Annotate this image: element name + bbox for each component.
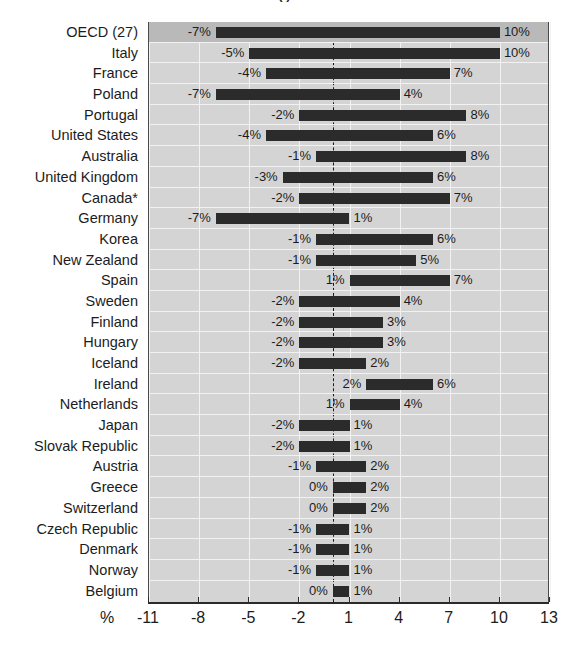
range-bar <box>316 151 466 162</box>
category-label: United Kingdom <box>0 167 145 188</box>
range-bar <box>299 110 466 121</box>
chart-row: -2%3% <box>149 312 548 333</box>
bar-value-label-high: 2% <box>370 498 389 519</box>
chart-title: ( ) <box>0 0 569 2</box>
bar-value-label-high: 1% <box>354 519 373 540</box>
bar-value-label-low: -4% <box>238 125 261 146</box>
category-label: Canada* <box>0 188 145 209</box>
axis-tick-label: 13 <box>540 609 558 627</box>
bar-value-label-low: -1% <box>288 519 311 540</box>
bar-value-label-low: -2% <box>271 353 294 374</box>
chart-row: -2%2% <box>149 353 548 374</box>
bar-value-label-low: -2% <box>271 312 294 333</box>
bar-value-label-high: 2% <box>370 477 389 498</box>
bar-value-label-low: -7% <box>188 208 211 229</box>
axis-tick <box>349 597 350 602</box>
range-bar <box>249 48 500 59</box>
category-label: Korea <box>0 229 145 250</box>
category-label: France <box>0 63 145 84</box>
bar-value-label-high: 6% <box>437 374 456 395</box>
category-label: Finland <box>0 312 145 333</box>
bar-value-label-low: -3% <box>255 167 278 188</box>
range-bar <box>266 68 450 79</box>
axis-tick-label: 4 <box>394 609 403 627</box>
range-bar <box>316 544 349 555</box>
range-bar <box>283 172 433 183</box>
range-bar <box>299 193 449 204</box>
range-bar <box>350 399 400 410</box>
range-bar <box>366 379 433 390</box>
bar-value-label-high: 10% <box>504 43 530 64</box>
axis-tick <box>449 597 450 602</box>
bar-value-label-low: 0% <box>309 477 328 498</box>
category-label: Australia <box>0 146 145 167</box>
bar-value-label-high: 1% <box>354 208 373 229</box>
category-label: OECD (27) <box>0 22 145 43</box>
category-label: Austria <box>0 456 145 477</box>
bar-value-label-low: -2% <box>271 105 294 126</box>
gridline <box>550 22 551 602</box>
bar-value-label-low: -2% <box>271 291 294 312</box>
axis-line <box>148 602 549 604</box>
axis-tick-label: 10 <box>490 609 508 627</box>
range-bar <box>299 296 399 307</box>
chart-row: 0%2% <box>149 498 548 519</box>
range-bar <box>299 441 349 452</box>
bar-value-label-high: 6% <box>437 125 456 146</box>
bar-value-label-low: -7% <box>188 84 211 105</box>
bar-value-label-low: -4% <box>238 63 261 84</box>
category-label: Portugal <box>0 105 145 126</box>
range-bar <box>316 461 366 472</box>
plot-area: -7%10%-5%10%-4%7%-7%4%-2%8%-4%6%-1%8%-3%… <box>148 22 549 602</box>
range-bar <box>299 420 349 431</box>
bar-value-label-low: -5% <box>221 43 244 64</box>
bar-value-label-low: -2% <box>271 415 294 436</box>
chart-row: -1%1% <box>149 519 548 540</box>
axis-tick <box>248 597 249 602</box>
bar-value-label-high: 1% <box>354 581 373 602</box>
range-bar <box>316 524 349 535</box>
range-bar <box>216 27 500 38</box>
category-label: Iceland <box>0 353 145 374</box>
chart-row: -2%1% <box>149 415 548 436</box>
bar-value-label-low: -7% <box>188 22 211 43</box>
bar-value-label-high: 1% <box>354 539 373 560</box>
chart-row: -1%8% <box>149 146 548 167</box>
chart-row: -1%2% <box>149 456 548 477</box>
bar-value-label-high: 6% <box>437 229 456 250</box>
bar-value-label-low: -1% <box>288 229 311 250</box>
axis-tick <box>499 597 500 602</box>
bar-value-label-low: -2% <box>271 332 294 353</box>
chart-row: -2%7% <box>149 188 548 209</box>
chart-row: -1%5% <box>149 250 548 271</box>
category-label: Denmark <box>0 539 145 560</box>
bar-value-label-low: 0% <box>309 498 328 519</box>
range-bar <box>316 255 416 266</box>
range-bar <box>299 358 366 369</box>
bar-value-label-low: 1% <box>326 270 345 291</box>
category-label: United States <box>0 125 145 146</box>
chart-row: -7%4% <box>149 84 548 105</box>
category-label: Greece <box>0 477 145 498</box>
range-bar <box>333 503 366 514</box>
chart-row: -7%1% <box>149 208 548 229</box>
axis-tick <box>198 597 199 602</box>
bar-value-label-high: 3% <box>387 332 406 353</box>
chart-row: -7%10% <box>149 22 548 43</box>
chart-row: -2%1% <box>149 436 548 457</box>
bar-value-label-high: 4% <box>404 291 423 312</box>
axis-tick-label: -11 <box>137 609 159 627</box>
bar-value-label-high: 1% <box>354 436 373 457</box>
chart-row: -1%1% <box>149 539 548 560</box>
range-bar <box>316 565 349 576</box>
category-label: Poland <box>0 84 145 105</box>
category-label: Italy <box>0 43 145 64</box>
chart-row: -4%6% <box>149 125 548 146</box>
category-label: Belgium <box>0 581 145 602</box>
category-label: Japan <box>0 415 145 436</box>
category-label: Hungary <box>0 332 145 353</box>
bar-value-label-high: 2% <box>370 353 389 374</box>
axis-tick <box>148 597 149 602</box>
range-bar <box>350 275 450 286</box>
axis-tick <box>549 597 550 602</box>
